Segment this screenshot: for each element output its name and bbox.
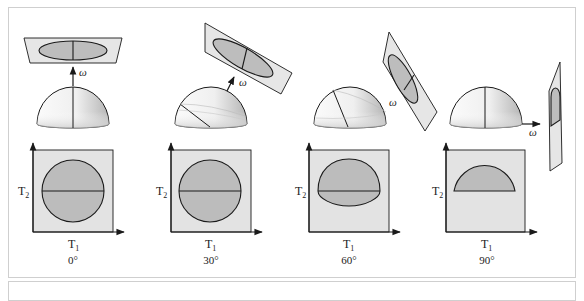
panel-30deg: ω T2 T1 30° xyxy=(156,23,292,266)
angle-label: 90° xyxy=(479,254,494,266)
omega-label: ω xyxy=(529,126,537,138)
omega-label: ω xyxy=(79,66,87,78)
hemisphere xyxy=(450,87,522,128)
angle-label: 30° xyxy=(203,254,218,266)
panel-60deg: ω T2 T1 60° xyxy=(295,32,437,266)
hemisphere xyxy=(37,87,109,128)
y-axis-label: T2 xyxy=(18,184,29,200)
hemisphere xyxy=(314,87,386,128)
t1-t2-plot xyxy=(33,143,124,232)
projection-plane xyxy=(383,32,437,131)
x-axis-label: T1 xyxy=(205,237,216,253)
y-axis-label: T2 xyxy=(295,184,306,200)
projection-plane xyxy=(549,62,562,171)
y-axis-label: T2 xyxy=(432,184,443,200)
y-axis-label: T2 xyxy=(156,184,167,200)
angle-label: 0° xyxy=(68,254,78,266)
t1-t2-plot xyxy=(171,143,262,232)
angle-label: 60° xyxy=(341,254,356,266)
hemisphere xyxy=(175,87,247,128)
x-axis-label: T1 xyxy=(481,237,492,253)
x-axis-label: T1 xyxy=(343,237,354,253)
t1-t2-plot xyxy=(446,143,537,232)
panel-90deg: ω T2 T1 90° xyxy=(432,62,562,266)
omega-label: ω xyxy=(389,96,397,108)
projection-plane xyxy=(205,23,292,94)
x-axis-label: T1 xyxy=(68,237,79,253)
t1-t2-plot xyxy=(309,143,400,232)
omega-label: ω xyxy=(239,76,247,88)
projection-plane xyxy=(24,38,122,63)
panel-0deg: ω T2 T1 0° xyxy=(18,38,124,266)
